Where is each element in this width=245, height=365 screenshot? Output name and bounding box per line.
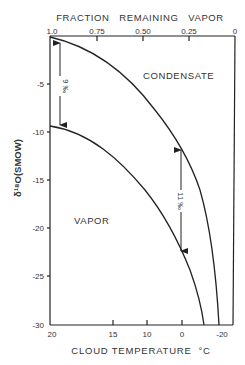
arrow-11-permil: 11 ‰ — [176, 150, 185, 251]
y-tick-label: -5 — [37, 80, 45, 89]
top-tick-label: 0.50 — [135, 27, 151, 36]
arrow-11-label: 11 ‰ — [176, 192, 185, 210]
top-axis-title: FRACTION REMAINING VAPOR — [56, 12, 224, 23]
y-axis-title: δ¹⁸O(SMOW) — [12, 139, 23, 197]
y-tick-label: -25 — [32, 272, 44, 281]
chart-canvas: FRACTION REMAINING VAPOR 1.0 0.75 0.50 0… — [0, 0, 245, 365]
bottom-tick-label: 15 — [109, 330, 118, 339]
bottom-axis-title: CLOUD TEMPERATURE °C — [71, 345, 211, 356]
y-tick-label: -15 — [32, 176, 44, 185]
y-tick-label: -20 — [32, 224, 44, 233]
top-tick-label: 0.75 — [89, 27, 105, 36]
condensate-label: CONDENSATE — [143, 70, 214, 81]
y-tick-label: -10 — [32, 128, 44, 137]
bottom-ticks — [113, 320, 182, 325]
arrow-9-label: 9 ‰ — [61, 79, 70, 93]
bottom-tick-label: 10 — [143, 330, 152, 339]
top-tick-label: 0 — [233, 27, 238, 36]
bottom-tick-label: 0 — [180, 330, 185, 339]
top-ticks — [97, 36, 189, 41]
bottom-tick-label: 20 — [48, 330, 57, 339]
vapor-label: VAPOR — [74, 215, 110, 226]
y-tick-label: -30 — [32, 321, 44, 330]
arrow-9-permil: 9 ‰ — [60, 43, 70, 125]
top-tick-label: 0.25 — [181, 27, 197, 36]
top-tick-label: 1.0 — [46, 27, 58, 36]
bottom-tick-label: -20 — [216, 330, 228, 339]
